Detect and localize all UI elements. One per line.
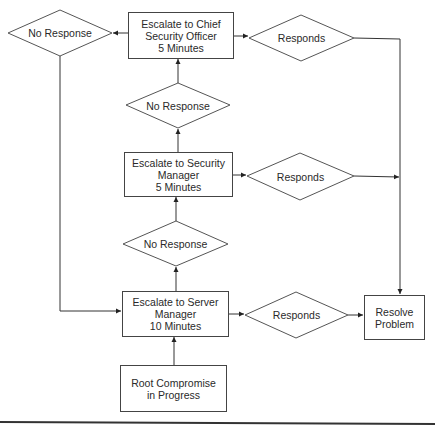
box-escalate-security-manager: Escalate to Security Manager 5 Minutes bbox=[124, 152, 233, 197]
diamond-label-responds-bottom: Responds bbox=[245, 292, 348, 338]
box-escalate-server-manager: Escalate to Server Manager 10 Minutes bbox=[122, 291, 229, 337]
diamond-text: No Response bbox=[146, 100, 210, 112]
box-label: Resolve Problem bbox=[375, 306, 414, 330]
edge-responds-top-to-resolve bbox=[354, 38, 400, 294]
diamond-text: No Response bbox=[144, 238, 208, 250]
diamond-label-no-response-lower: No Response bbox=[123, 221, 228, 266]
diamond-text: No Response bbox=[28, 27, 92, 39]
box-escalate-chief-officer: Escalate to Chief Security Officer 5 Min… bbox=[128, 12, 234, 59]
diamond-text: Responds bbox=[273, 309, 320, 321]
diamond-text: Responds bbox=[278, 32, 325, 44]
edge-noresp-loop-to-server bbox=[60, 56, 121, 311]
box-label: Escalate to Security Manager 5 Minutes bbox=[132, 157, 225, 193]
diamond-text: Responds bbox=[277, 171, 324, 183]
diamond-label-no-response-top-left: No Response bbox=[8, 10, 112, 56]
box-resolve-problem: Resolve Problem bbox=[364, 295, 425, 340]
diamond-label-responds-middle: Responds bbox=[247, 153, 354, 200]
box-root-compromise: Root Compromise in Progress bbox=[120, 365, 227, 412]
diamond-label-responds-top: Responds bbox=[249, 15, 354, 61]
edge-responds-mid-to-rail bbox=[354, 176, 399, 177]
diamond-label-no-response-upper: No Response bbox=[126, 83, 230, 128]
bottom-rule bbox=[0, 422, 435, 424]
box-label: Root Compromise in Progress bbox=[131, 377, 216, 401]
box-label: Escalate to Server Manager 10 Minutes bbox=[133, 296, 219, 332]
box-label: Escalate to Chief Security Officer 5 Min… bbox=[141, 18, 220, 54]
flowchart-connectors bbox=[0, 0, 435, 427]
